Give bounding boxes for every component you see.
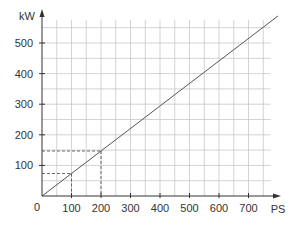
x-axis-label: PS (271, 203, 286, 215)
y-tick-label: 500 (15, 37, 33, 49)
x-tick-label: 500 (180, 202, 198, 214)
y-axis-arrow-icon (40, 9, 45, 17)
tick-labels: 100200300400500600700100200300400500 (15, 37, 258, 214)
origin-label: 0 (34, 201, 40, 213)
ps-to-kw-chart: 100200300400500600700100200300400500 kW … (0, 0, 291, 226)
x-tick-label: 100 (62, 202, 80, 214)
x-tick-label: 400 (151, 202, 169, 214)
y-tick-label: 200 (15, 129, 33, 141)
x-tick-label: 200 (92, 202, 110, 214)
y-tick-label: 300 (15, 98, 33, 110)
x-axis-arrow-icon (273, 194, 281, 199)
x-tick-label: 600 (210, 202, 228, 214)
y-tick-label: 100 (15, 159, 33, 171)
x-tick-label: 700 (239, 202, 257, 214)
x-tick-label: 300 (121, 202, 139, 214)
y-tick-label: 400 (15, 68, 33, 80)
chart-svg: 100200300400500600700100200300400500 kW … (0, 0, 291, 226)
y-axis-label: kW (19, 10, 36, 22)
